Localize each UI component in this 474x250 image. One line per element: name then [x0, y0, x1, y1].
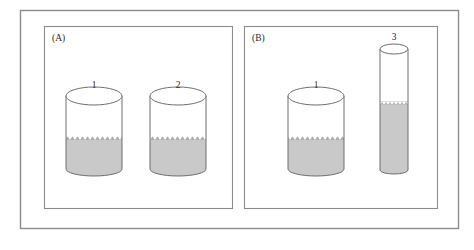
vessel-a-2-label: 2 [176, 80, 181, 90]
vessel-b-3-liquid [380, 104, 408, 174]
vessel-b-1 [288, 87, 344, 176]
vessel-b-3-rim [380, 44, 408, 54]
vessel-a-2-liquid [150, 140, 206, 176]
vessel-a-1-liquid-surface [66, 137, 122, 141]
vessel-a-1-label: 1 [92, 80, 97, 90]
vessel-b-3-liquid-surface [380, 102, 408, 105]
vessel-b-1-liquid [288, 140, 344, 176]
label-group: (A)12(B)13 [52, 32, 397, 90]
figure-canvas: (A)12(B)13 [0, 0, 474, 250]
vessel-b-3 [380, 44, 408, 174]
vessel-b-1-liquid-surface [288, 137, 344, 141]
vessel-a-2-liquid-surface [150, 137, 206, 141]
panel-b-label: (B) [252, 33, 265, 44]
vessel-a-2 [150, 87, 206, 176]
vessel-b-3-label: 3 [392, 32, 397, 42]
panel-a-label: (A) [52, 33, 65, 44]
vessel-group [66, 44, 408, 176]
vessel-b-1-label: 1 [314, 80, 319, 90]
vessel-a-1-liquid [66, 140, 122, 176]
vessel-a-1 [66, 87, 122, 176]
vessel-comparison-diagram: (A)12(B)13 [0, 0, 474, 250]
